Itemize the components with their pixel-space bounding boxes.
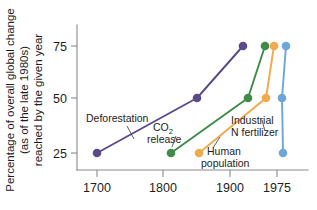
data-point-deforestation-50 [193, 94, 202, 103]
annotation-industrial-n-fertilizer: Industrial N fertilizer [231, 114, 279, 138]
x-tick-label-1800: 1800 [149, 181, 177, 195]
x-tick-label-1975: 1975 [263, 181, 291, 195]
data-point-deforestation-75 [239, 42, 248, 51]
y-axis-label-line1: Percentage of overall global change [4, 8, 16, 192]
annotation-deforestation: Deforestation [86, 112, 149, 139]
data-point-co2-25 [167, 149, 176, 158]
y-axis-label-line3: reached by the given year [32, 34, 44, 167]
data-point-co2-50 [244, 94, 253, 103]
y-tick-label-25: 25 [53, 147, 67, 161]
series-human-population [195, 42, 279, 158]
chart-figure: Percentage of overall global change (as … [0, 0, 317, 210]
annotation-co2-release: CO2 release [147, 121, 182, 147]
series-industrial-n-fertilizer [278, 42, 291, 158]
y-axis-ticks: 75 50 25 [53, 40, 77, 161]
y-tick-label-75: 75 [53, 40, 67, 54]
y-axis-label-line2: (as of the late 1980s) [18, 46, 30, 154]
x-axis-ticks: 1700 1800 1900 1975 [83, 170, 291, 195]
data-point-deforestation-25 [93, 149, 102, 158]
data-point-fertilizer-25 [279, 149, 288, 158]
data-point-fertilizer-75 [282, 42, 291, 51]
annotation-label-deforestation: Deforestation [86, 112, 149, 124]
data-point-human-50 [262, 94, 271, 103]
annotation-label-human-line2: population [201, 157, 250, 169]
y-axis-label: Percentage of overall global change (as … [4, 8, 44, 192]
annotation-label-human-line1: Human [207, 145, 241, 157]
x-tick-label-1700: 1700 [83, 181, 111, 195]
data-point-human-25 [195, 149, 204, 158]
annotation-label-fertilizer-line2: N fertilizer [231, 126, 279, 138]
annotation-human-population: Human population [201, 137, 250, 169]
data-point-fertilizer-50 [278, 94, 287, 103]
line-chart: Percentage of overall global change (as … [0, 0, 317, 210]
data-point-human-75 [270, 42, 279, 51]
annotation-label-co2-line2: release [147, 133, 182, 145]
y-tick-label-50: 50 [53, 92, 67, 106]
data-point-co2-75 [261, 42, 270, 51]
annotation-label-fertilizer-line1: Industrial [231, 114, 274, 126]
x-tick-label-1900: 1900 [216, 181, 244, 195]
